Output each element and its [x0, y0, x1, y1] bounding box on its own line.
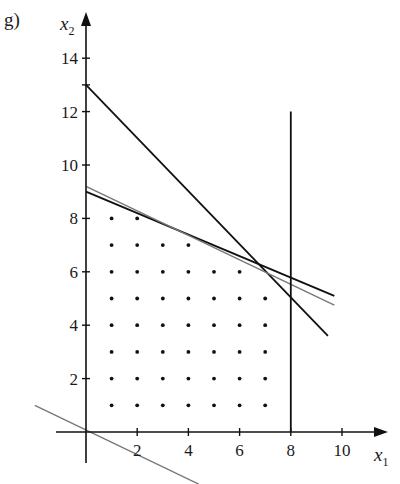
integer-point [187, 243, 191, 247]
integer-point [263, 323, 267, 327]
integer-point [212, 377, 216, 381]
integer-point [212, 403, 216, 407]
x-axis-arrow-icon [374, 427, 388, 437]
integer-point [263, 350, 267, 354]
panel-label: g) [4, 9, 20, 31]
integer-point [238, 377, 242, 381]
x-tick-label: 10 [334, 441, 351, 460]
integer-point [238, 297, 242, 301]
integer-point [161, 243, 165, 247]
objective-level-line [86, 186, 334, 305]
integer-point [135, 377, 139, 381]
integer-point [263, 377, 267, 381]
x-axis-label: x1 [373, 444, 388, 469]
integer-point [110, 377, 114, 381]
x-tick-label: 8 [287, 441, 296, 460]
axes: 246810 2468101214 [56, 12, 388, 463]
y-axis-arrow-icon [81, 12, 91, 26]
integer-point [161, 270, 165, 274]
integer-point [161, 323, 165, 327]
integer-point [161, 350, 165, 354]
y-tick-label: 6 [70, 263, 79, 282]
integer-point [110, 270, 114, 274]
integer-point [212, 350, 216, 354]
objective-through-origin-line [35, 405, 199, 484]
integer-point [135, 243, 139, 247]
integer-point [187, 323, 191, 327]
integer-point [110, 217, 114, 221]
integer-point [212, 297, 216, 301]
y-tick-label: 8 [70, 209, 79, 228]
integer-point [110, 323, 114, 327]
lp-graph: g) 246810 2468101214 x1 x2 [0, 0, 400, 484]
integer-point [187, 270, 191, 274]
integer-point [238, 323, 242, 327]
constraint-lines [35, 85, 335, 484]
integer-point [135, 403, 139, 407]
integer-point [212, 323, 216, 327]
y-tick-label: 14 [61, 49, 79, 68]
integer-point [110, 403, 114, 407]
integer-point [110, 350, 114, 354]
integer-point [135, 217, 139, 221]
integer-point [263, 297, 267, 301]
integer-point [135, 297, 139, 301]
integer-point [187, 350, 191, 354]
x-tick-label: 2 [133, 441, 142, 460]
integer-point [238, 270, 242, 274]
integer-point [238, 403, 242, 407]
integer-point [263, 403, 267, 407]
integer-point [187, 377, 191, 381]
y-tick-label: 2 [70, 370, 79, 389]
integer-point [135, 323, 139, 327]
integer-point [161, 403, 165, 407]
integer-point [110, 243, 114, 247]
integer-point [135, 270, 139, 274]
integer-point-grid [110, 217, 267, 408]
integer-point [187, 403, 191, 407]
integer-point [135, 350, 139, 354]
integer-point [187, 297, 191, 301]
x-tick-label: 4 [184, 441, 193, 460]
y-tick-label: 4 [70, 316, 79, 335]
integer-point [238, 350, 242, 354]
y-tick-label: 12 [61, 103, 78, 122]
y-axis-label: x2 [59, 13, 74, 38]
integer-point [110, 297, 114, 301]
x-tick-label: 6 [235, 441, 244, 460]
integer-point [161, 377, 165, 381]
integer-point [161, 297, 165, 301]
constraint-shallow-line [86, 192, 334, 296]
integer-point [212, 270, 216, 274]
y-tick-label: 10 [61, 156, 78, 175]
